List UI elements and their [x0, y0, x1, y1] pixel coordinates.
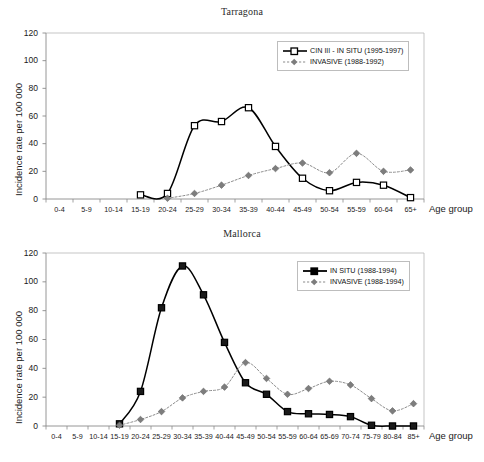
- data-point-marker: [191, 123, 197, 129]
- data-point-marker: [389, 423, 395, 429]
- plot-svg-tarragona: [0, 0, 484, 228]
- data-point-marker: [221, 339, 227, 345]
- data-point-marker: [137, 416, 144, 423]
- y-axis-tick-label: 100: [16, 55, 38, 65]
- data-point-marker: [368, 395, 375, 402]
- legend-marker-open-square-icon: [282, 46, 308, 56]
- data-point-marker: [353, 150, 360, 157]
- y-axis-tick-label: 60: [16, 111, 38, 121]
- data-point-marker: [263, 391, 269, 397]
- plot-area-mallorca: [0, 228, 484, 462]
- y-axis-tick-label: 80: [16, 83, 38, 93]
- x-axis-title-mallorca: Age group: [429, 430, 473, 441]
- data-point-marker: [347, 414, 353, 420]
- y-axis-tick-label: 60: [16, 334, 38, 344]
- data-point-marker: [410, 400, 417, 407]
- y-axis-tick-label: 0: [16, 194, 38, 204]
- y-axis-tick-label: 120: [16, 28, 38, 38]
- data-point-marker: [179, 395, 186, 402]
- data-point-marker: [326, 188, 332, 194]
- y-axis-tick-label: 20: [16, 166, 38, 176]
- plot-area-tarragona: [0, 0, 484, 228]
- plot-svg-mallorca: [0, 228, 484, 462]
- y-axis-tick-label: 40: [16, 363, 38, 373]
- data-point-marker: [179, 263, 185, 269]
- figure-page: Tarragona Incidence rate per 100 000 CIN…: [0, 0, 484, 462]
- data-point-marker: [299, 175, 305, 181]
- data-point-marker: [347, 382, 354, 389]
- y-axis-tick-label: 0: [16, 421, 38, 431]
- data-point-marker: [407, 167, 414, 174]
- legend-item: INVASIVE (1988-1992): [282, 56, 403, 67]
- data-point-marker: [299, 160, 306, 167]
- x-axis-tick-label: 65+: [392, 205, 429, 214]
- data-point-marker: [221, 384, 228, 391]
- data-point-marker: [218, 118, 224, 124]
- y-axis-tick-label: 40: [16, 138, 38, 148]
- data-point-marker: [326, 411, 332, 417]
- data-point-marker: [284, 408, 290, 414]
- x-axis-title-tarragona: Age group: [429, 203, 473, 214]
- data-point-marker: [272, 165, 279, 172]
- data-point-marker: [410, 423, 416, 429]
- data-point-marker: [137, 192, 143, 198]
- data-point-marker: [368, 422, 374, 428]
- chart-mallorca: Mallorca Incidence rate per 100 000 IN S…: [0, 228, 484, 462]
- data-point-marker: [284, 391, 291, 398]
- y-axis-tick-label: 20: [16, 392, 38, 402]
- x-axis-tick-label: 85+: [398, 432, 429, 441]
- data-point-marker: [200, 292, 206, 298]
- data-point-marker: [158, 305, 164, 311]
- data-point-marker: [242, 380, 248, 386]
- series-line: [141, 107, 411, 199]
- y-axis-tick-label: 80: [16, 305, 38, 315]
- data-point-marker: [326, 169, 333, 176]
- legend-item: IN SITU (1988-1994): [302, 265, 404, 276]
- data-point-marker: [389, 408, 396, 415]
- data-point-marker: [218, 182, 225, 189]
- data-point-marker: [380, 168, 387, 175]
- legend-marker-dot-icon: [302, 277, 328, 287]
- data-point-marker: [242, 359, 249, 366]
- legend-item: INVASIVE (1988-1994): [302, 276, 404, 287]
- data-point-marker: [137, 388, 143, 394]
- legend-label: CIN III - IN SITU (1995-1997): [310, 46, 403, 55]
- legend-tarragona: CIN III - IN SITU (1995-1997) INVASIVE (…: [277, 41, 409, 71]
- data-point-marker: [158, 408, 165, 415]
- data-point-marker: [380, 182, 386, 188]
- legend-label: IN SITU (1988-1994): [330, 266, 397, 275]
- data-point-marker: [407, 195, 413, 201]
- data-point-marker: [191, 190, 198, 197]
- series-line: [168, 153, 411, 198]
- legend-label: INVASIVE (1988-1992): [310, 57, 384, 66]
- legend-item: CIN III - IN SITU (1995-1997): [282, 45, 403, 56]
- y-axis-tick-label: 120: [16, 248, 38, 258]
- legend-marker-filled-square-icon: [302, 266, 328, 276]
- legend-marker-dot-icon: [282, 57, 308, 67]
- legend-mallorca: IN SITU (1988-1994) INVASIVE (1988-1994): [297, 261, 410, 291]
- data-point-marker: [245, 105, 251, 111]
- data-point-marker: [272, 143, 278, 149]
- legend-label: INVASIVE (1988-1994): [330, 277, 404, 286]
- chart-tarragona: Tarragona Incidence rate per 100 000 CIN…: [0, 0, 484, 228]
- y-axis-tick-label: 100: [16, 276, 38, 286]
- data-point-marker: [245, 172, 252, 179]
- data-point-marker: [305, 411, 311, 417]
- data-point-marker: [353, 179, 359, 185]
- data-point-marker: [305, 385, 312, 392]
- data-point-marker: [326, 378, 333, 385]
- data-point-marker: [200, 388, 207, 395]
